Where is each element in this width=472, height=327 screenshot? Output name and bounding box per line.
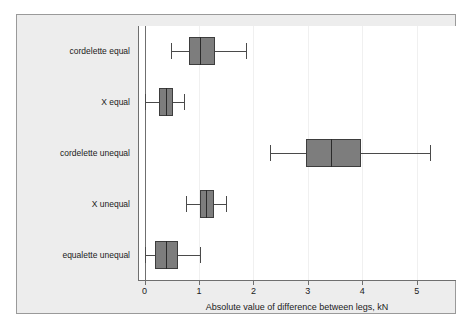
median-line: [166, 88, 167, 116]
x-tick-4: [362, 281, 363, 285]
box-iqr: [200, 190, 214, 218]
x-tick-label-5: 5: [405, 286, 429, 297]
y-category-label: X unequal: [92, 199, 130, 209]
whisker-high-cap: [246, 43, 247, 59]
whisker-high-line: [214, 204, 227, 205]
x-tick-1: [199, 281, 200, 285]
whisker-low-cap: [171, 43, 172, 59]
whisker-low-cap: [186, 196, 187, 212]
median-line: [206, 190, 207, 218]
x-tick-0: [145, 281, 146, 285]
zero-reference-line: [145, 26, 146, 280]
x-tick-label-2: 2: [241, 286, 265, 297]
whisker-high-line: [173, 102, 183, 103]
whisker-high-cap: [430, 145, 431, 161]
whisker-low-cap: [145, 247, 146, 263]
box-iqr: [189, 37, 216, 65]
whisker-low-line: [270, 153, 306, 154]
whisker-low-cap: [145, 94, 146, 110]
y-category-label: equalette unequal: [62, 250, 130, 260]
whisker-high-cap: [200, 247, 201, 263]
median-line: [331, 139, 332, 167]
x-axis-title: Absolute value of difference between leg…: [138, 302, 456, 313]
whisker-low-line: [145, 255, 156, 256]
whisker-high-cap: [184, 94, 185, 110]
whisker-high-line: [361, 153, 430, 154]
y-category-label: cordelette unequal: [60, 148, 130, 158]
whisker-low-line: [171, 51, 189, 52]
x-tick-label-4: 4: [350, 286, 374, 297]
x-tick-5: [417, 281, 418, 285]
whisker-low-cap: [270, 145, 271, 161]
figure-panel: 012345 cordelette equalX equalcordelette…: [16, 14, 456, 314]
x-tick-2: [253, 281, 254, 285]
y-category-label: X equal: [101, 97, 130, 107]
box-iqr: [306, 139, 361, 167]
whisker-high-line: [178, 255, 199, 256]
x-tick-3: [308, 281, 309, 285]
plot-area: [138, 26, 456, 280]
median-line: [166, 241, 167, 269]
x-tick-label-3: 3: [296, 286, 320, 297]
whisker-high-cap: [226, 196, 227, 212]
median-line: [200, 37, 201, 65]
whisker-low-line: [145, 102, 159, 103]
whisker-high-line: [215, 51, 246, 52]
gridline-2: [253, 26, 254, 280]
y-category-label: cordelette equal: [70, 46, 131, 56]
x-axis-line: [138, 280, 456, 281]
y-axis-line: [138, 26, 139, 280]
whisker-low-line: [186, 204, 199, 205]
x-tick-label-1: 1: [187, 286, 211, 297]
x-tick-label-0: 0: [133, 286, 157, 297]
